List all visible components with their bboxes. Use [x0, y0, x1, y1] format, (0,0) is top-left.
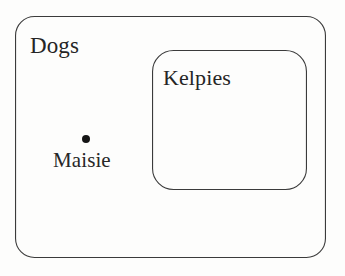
set-label-dogs: Dogs [30, 34, 79, 57]
element-label-maisie: Maisie [53, 150, 111, 171]
element-point-maisie [82, 135, 90, 143]
diagram-canvas: Dogs Kelpies Maisie [0, 0, 345, 276]
set-label-kelpies: Kelpies [163, 67, 231, 89]
